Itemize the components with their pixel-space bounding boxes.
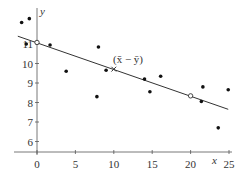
scatter-chart: 051015202567891011 x y (x̄ − ȳ) — [0, 0, 243, 175]
open-circle-marker — [188, 94, 192, 98]
data-point — [216, 126, 220, 130]
x-tick-label: 0 — [34, 158, 40, 170]
data-point — [64, 70, 68, 74]
y-tick-label: 6 — [28, 136, 34, 148]
y-tick-label: 7 — [28, 116, 34, 128]
x-tick-label: 10 — [108, 158, 120, 170]
data-point — [226, 88, 230, 92]
data-point — [148, 90, 152, 94]
y-tick-label: 10 — [22, 58, 34, 70]
data-point — [159, 74, 163, 78]
x-tick-label: 15 — [147, 158, 159, 170]
y-tick-label: 8 — [28, 97, 34, 109]
x-tick-label: 25 — [224, 158, 236, 170]
data-point — [143, 77, 147, 81]
y-tick-label: 9 — [28, 77, 34, 89]
regression-line-segment — [18, 36, 228, 109]
y-axis-label: y — [39, 5, 45, 17]
regression-line — [18, 36, 228, 109]
data-point — [104, 69, 108, 73]
x-tick-label: 5 — [73, 158, 79, 170]
data-point — [97, 45, 101, 49]
data-point — [28, 17, 32, 21]
data-point — [200, 100, 204, 104]
reference-markers — [35, 40, 193, 98]
axes — [14, 8, 232, 155]
data-point — [48, 43, 52, 47]
x-tick-label: 20 — [185, 158, 197, 170]
mean-point-label: (x̄ − ȳ) — [113, 53, 143, 66]
open-circle-marker — [35, 40, 39, 44]
x-axis-label: x — [211, 154, 217, 166]
data-point — [95, 95, 99, 99]
data-point — [201, 85, 205, 89]
data-point — [24, 42, 28, 46]
data-point — [20, 21, 24, 25]
